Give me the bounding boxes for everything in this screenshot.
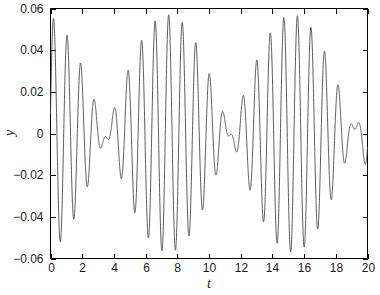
x-tick-label: 2	[79, 261, 86, 275]
x-tick-labels: 02468101214161820	[48, 261, 375, 275]
figure-container: −0.06−0.04−0.0200.020.040.06 02468101214…	[0, 0, 380, 295]
y-tick-label: 0.02	[20, 85, 44, 99]
y-tick-label: 0	[37, 127, 44, 141]
data-series-line	[51, 15, 368, 252]
x-tick-label: 0	[48, 261, 55, 275]
x-tick-label: 10	[203, 261, 217, 275]
x-tick-label: 16	[298, 261, 312, 275]
y-tick-label: 0.06	[20, 2, 44, 16]
y-tick-label: −0.02	[13, 168, 44, 182]
x-tick-label: 4	[111, 261, 118, 275]
x-axis-label: t	[207, 276, 212, 291]
chart-canvas: −0.06−0.04−0.0200.020.040.06 02468101214…	[0, 0, 380, 295]
x-tick-label: 12	[235, 261, 249, 275]
x-tick-label: 20	[362, 261, 376, 275]
y-tick-label: −0.06	[13, 252, 44, 266]
x-tick-label: 6	[143, 261, 150, 275]
y-tick-labels: −0.06−0.04−0.0200.020.040.06	[13, 2, 44, 266]
y-tick-label: −0.04	[13, 210, 44, 224]
x-tick-label: 8	[174, 261, 181, 275]
plot-area: −0.06−0.04−0.0200.020.040.06 02468101214…	[13, 2, 375, 276]
y-tick-label: 0.04	[20, 43, 44, 57]
x-tick-label: 14	[266, 261, 280, 275]
y-axis-label: y	[2, 129, 17, 138]
x-tick-label: 18	[330, 261, 344, 275]
